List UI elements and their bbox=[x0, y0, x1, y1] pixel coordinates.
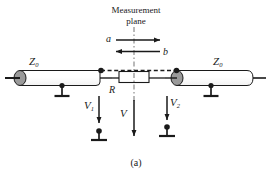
circuit-diagram-svg bbox=[0, 0, 272, 178]
figure-caption: (a) bbox=[0, 157, 272, 168]
label-z0-left: Z0 bbox=[29, 55, 38, 68]
label-wave-b: b bbox=[163, 46, 168, 57]
label-v2: V2 bbox=[170, 96, 180, 109]
label-z0-right: Z0 bbox=[213, 55, 222, 68]
coaxial-cable-left bbox=[5, 71, 112, 86]
ground-symbol-v2 bbox=[159, 124, 175, 136]
label-v1-symbol: V bbox=[84, 99, 91, 111]
label-resistor-r: R bbox=[109, 84, 115, 95]
label-v-center: V bbox=[120, 107, 127, 119]
label-v2-subscript: 2 bbox=[177, 102, 180, 109]
coaxial-cable-right bbox=[165, 71, 266, 86]
label-v1: V1 bbox=[84, 99, 94, 112]
figure-container: Measurement plane bbox=[0, 0, 272, 178]
label-z0-right-subscript: 0 bbox=[219, 61, 222, 68]
node-right-shield bbox=[174, 68, 180, 74]
node-left-shield bbox=[98, 68, 104, 74]
label-v2-symbol: V bbox=[170, 96, 177, 108]
ground-symbol-v1 bbox=[91, 128, 107, 140]
resistor-R bbox=[112, 72, 165, 83]
label-wave-a: a bbox=[106, 33, 111, 44]
label-v1-subscript: 1 bbox=[91, 105, 94, 112]
label-z0-left-subscript: 0 bbox=[35, 61, 38, 68]
